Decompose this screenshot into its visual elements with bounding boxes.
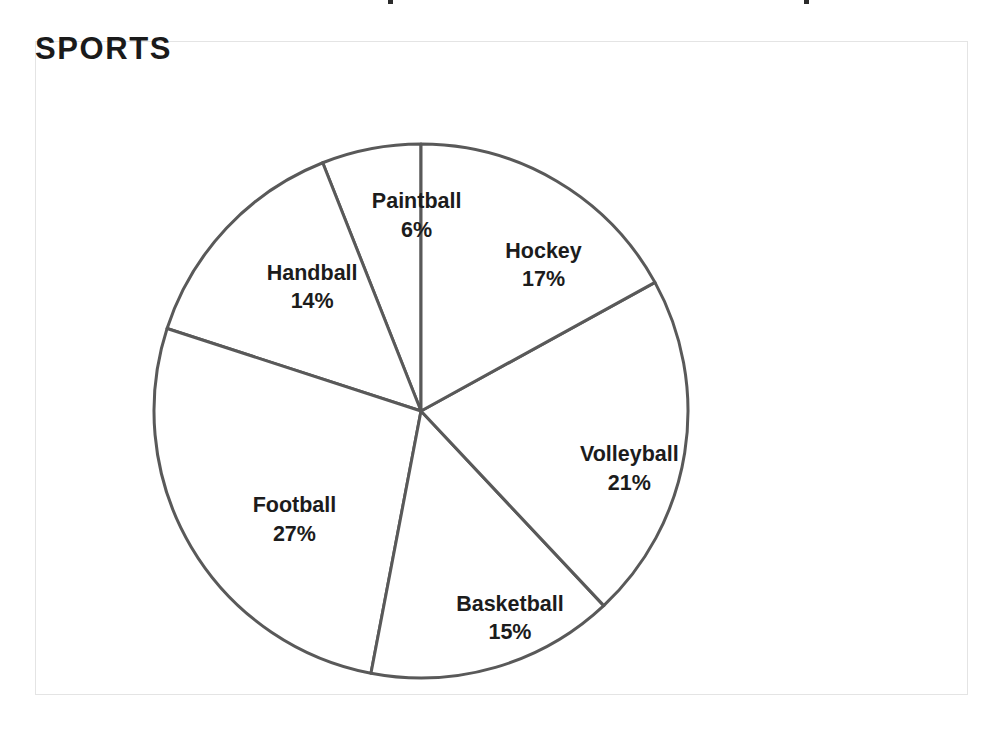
- page-title: SPORTS: [35, 31, 172, 67]
- clipped-mark: [804, 0, 809, 4]
- pie-label-value: 14%: [267, 287, 358, 315]
- clipped-mark: [388, 0, 393, 4]
- pie-label-hockey: Hockey17%: [505, 237, 582, 294]
- pie-label-name: Paintball: [372, 189, 462, 213]
- pie-label-name: Football: [253, 493, 337, 517]
- pie-label-value: 17%: [505, 265, 582, 293]
- pie-label-name: Volleyball: [580, 442, 679, 466]
- pie-label-handball: Handball14%: [267, 258, 358, 315]
- pie-label-value: 21%: [580, 468, 679, 496]
- pie-label-volleyball: Volleyball21%: [580, 440, 679, 497]
- pie-label-football: Football27%: [253, 491, 337, 548]
- pie-label-value: 27%: [253, 519, 337, 547]
- pie-label-value: 6%: [372, 215, 462, 243]
- pie-label-name: Basketball: [456, 591, 564, 615]
- pie-label-name: Hockey: [505, 239, 582, 263]
- pie-label-name: Handball: [267, 260, 358, 284]
- chart-frame: Paintball6%Handball14%Football27%Basketb…: [35, 41, 968, 695]
- pie-label-basketball: Basketball15%: [456, 589, 564, 646]
- pie-label-value: 15%: [456, 618, 564, 646]
- pie-label-paintball: Paintball6%: [372, 187, 462, 244]
- clipped-text-remnants: [0, 0, 1003, 10]
